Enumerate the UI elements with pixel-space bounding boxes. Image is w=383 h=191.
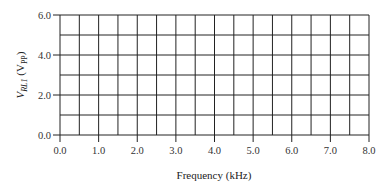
x-tick-label: 4.0 bbox=[208, 145, 221, 156]
y-tick-label: 0.0 bbox=[38, 130, 51, 141]
y-axis-ticks: 0.02.04.06.0 bbox=[38, 10, 60, 141]
y-tick-label: 6.0 bbox=[38, 10, 51, 21]
y-tick-label: 2.0 bbox=[38, 90, 51, 101]
y-axis-title: VRL1 (VPP) bbox=[14, 51, 29, 98]
x-tick-label: 5.0 bbox=[247, 145, 260, 156]
grid bbox=[60, 15, 369, 135]
x-axis-ticks: 0.01.02.03.04.05.06.07.08.0 bbox=[53, 135, 375, 156]
y-tick-label: 4.0 bbox=[38, 50, 51, 61]
x-axis-title: Frequency (kHz) bbox=[177, 169, 252, 182]
x-tick-label: 7.0 bbox=[324, 145, 337, 156]
x-tick-label: 8.0 bbox=[362, 145, 375, 156]
x-tick-label: 3.0 bbox=[169, 145, 182, 156]
chart: 0.02.04.06.0 0.01.02.03.04.05.06.07.08.0… bbox=[0, 0, 383, 191]
x-tick-label: 2.0 bbox=[131, 145, 144, 156]
x-tick-label: 1.0 bbox=[92, 145, 105, 156]
x-tick-label: 0.0 bbox=[53, 145, 66, 156]
x-tick-label: 6.0 bbox=[285, 145, 298, 156]
